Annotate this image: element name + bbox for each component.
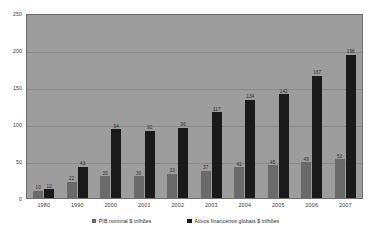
x-tick-label: 2002: [161, 202, 195, 212]
bars-layer: 1012224330943092339637117421344514249167…: [27, 15, 362, 198]
y-tick-label: 150: [13, 85, 22, 91]
bar-gdp: 42: [234, 167, 244, 198]
bar-gdp: 37: [201, 171, 211, 198]
bar-group: 3092: [128, 15, 162, 198]
y-tick-label: 250: [13, 11, 22, 17]
bar-financial-assets: 142: [279, 94, 289, 198]
bar-gdp: 33: [167, 174, 177, 198]
y-tick-label: 100: [13, 122, 22, 128]
legend-label: Ativos financeiros globais $ trilhões: [194, 218, 279, 224]
legend-item[interactable]: PIB nominal $ trilhões: [92, 218, 152, 224]
x-tick-label: 2005: [262, 202, 296, 212]
bar-group: 53196: [329, 15, 363, 198]
bar-value-label: 134: [246, 94, 254, 99]
bar-value-label: 94: [114, 124, 119, 129]
x-tick-label: 2006: [295, 202, 329, 212]
legend-item[interactable]: Ativos financeiros globais $ trilhões: [187, 218, 279, 224]
bar-value-label: 96: [181, 122, 186, 127]
legend-swatch-assets: [187, 219, 192, 224]
bar-gdp: 10: [33, 191, 43, 198]
bar-group: 2243: [61, 15, 95, 198]
bar-value-label: 53: [337, 154, 342, 159]
bar-value-label: 37: [203, 165, 208, 170]
bar-group: 3094: [94, 15, 128, 198]
x-tick-label: 1990: [61, 202, 95, 212]
bar-value-label: 43: [80, 161, 85, 166]
bar-financial-assets: 94: [111, 129, 121, 198]
bar-value-label: 117: [213, 107, 221, 112]
bar-group: 37117: [195, 15, 229, 198]
bar-value-label: 30: [103, 171, 108, 176]
x-tick-label: 2003: [195, 202, 229, 212]
bar-value-label: 30: [136, 171, 141, 176]
bar-value-label: 196: [347, 49, 355, 54]
bar-group: 49167: [295, 15, 329, 198]
y-tick-label: 50: [16, 159, 22, 165]
x-tick-label: 2004: [228, 202, 262, 212]
bar-financial-assets: 92: [145, 131, 155, 198]
bar-group: 42134: [228, 15, 262, 198]
bar-value-label: 92: [147, 125, 152, 130]
bar-gdp: 45: [268, 165, 278, 198]
legend-swatch-gdp: [92, 219, 97, 224]
bar-financial-assets: 12: [44, 189, 54, 198]
bar-value-label: 10: [36, 185, 41, 190]
bar-financial-assets: 196: [346, 55, 356, 198]
bar-group: 45142: [262, 15, 296, 198]
y-axis: 050100150200250: [0, 14, 24, 199]
bar-value-label: 167: [313, 70, 321, 75]
x-tick-label: 2000: [94, 202, 128, 212]
x-tick-label: 2001: [128, 202, 162, 212]
bar-value-label: 45: [270, 160, 275, 165]
bar-financial-assets: 43: [78, 167, 88, 198]
bar-gdp: 22: [67, 182, 77, 198]
bar-financial-assets: 167: [312, 76, 322, 198]
y-tick-label: 200: [13, 48, 22, 54]
bar-gdp: 30: [100, 176, 110, 198]
x-tick-label: 1980: [27, 202, 61, 212]
bar-group: 1012: [27, 15, 61, 198]
bar-value-label: 42: [237, 162, 242, 167]
legend-label: PIB nominal $ trilhões: [99, 218, 152, 224]
bar-financial-assets: 96: [178, 128, 188, 198]
bar-gdp: 53: [335, 159, 345, 198]
x-axis: 1980199020002001200220032004200520062007: [27, 202, 362, 212]
bar-gdp: 49: [301, 162, 311, 198]
bar-financial-assets: 134: [245, 100, 255, 198]
y-tick-label: 0: [19, 196, 22, 202]
bar-value-label: 142: [280, 89, 288, 94]
bar-gdp: 30: [134, 176, 144, 198]
x-tick-label: 2007: [329, 202, 363, 212]
bar-value-label: 49: [304, 157, 309, 162]
bar-value-label: 33: [170, 168, 175, 173]
chart-legend: PIB nominal $ trilhõesAtivos financeiros…: [0, 218, 371, 224]
bar-value-label: 12: [47, 184, 52, 189]
bar-value-label: 22: [69, 176, 74, 181]
bar-chart: 050100150200250 101222433094309233963711…: [0, 0, 371, 238]
bar-financial-assets: 117: [212, 112, 222, 198]
bar-group: 3396: [161, 15, 195, 198]
